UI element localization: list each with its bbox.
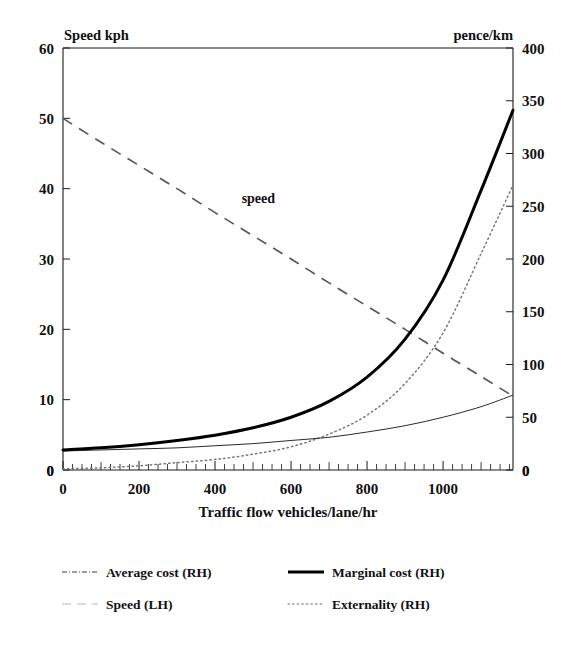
left-axis-unit-label: Speed kph: [64, 27, 129, 43]
right-tick-label: 100: [522, 357, 545, 373]
right-tick-label: 300: [522, 146, 545, 162]
legend-label: Externality (RH): [332, 597, 430, 612]
chart-figure: Speed kph pence/km 0102030405060 0501001…: [0, 0, 588, 652]
x-tick-label: 1000: [428, 481, 458, 497]
x-tick-label: 0: [59, 481, 67, 497]
right-tick-label: 400: [522, 41, 545, 57]
legend-label: Marginal cost (RH): [332, 565, 444, 580]
x-tick-label: 600: [280, 481, 303, 497]
chart-background: [0, 0, 588, 652]
x-axis-title: Traffic flow vehicles/lane/hr: [199, 504, 378, 520]
right-axis-unit-label: pence/km: [453, 27, 513, 43]
left-tick-label: 40: [39, 181, 54, 197]
bottom-left-zero-label: 0: [47, 463, 55, 479]
right-tick-label: 50: [522, 410, 537, 426]
right-tick-label: 350: [522, 93, 545, 109]
left-tick-label: 30: [39, 252, 54, 268]
annotation-layer: speed: [242, 191, 276, 206]
right-tick-label: 250: [522, 199, 545, 215]
legend-label: Average cost (RH): [106, 565, 211, 580]
left-tick-label: 10: [39, 392, 54, 408]
right-tick-label: 200: [522, 252, 545, 268]
traffic-flow-cost-chart: Speed kph pence/km 0102030405060 0501001…: [0, 0, 588, 652]
x-tick-label: 400: [204, 481, 227, 497]
x-tick-label: 800: [356, 481, 379, 497]
legend-label: Speed (LH): [106, 597, 172, 612]
left-tick-label: 20: [39, 322, 54, 338]
left-tick-label: 60: [39, 41, 54, 57]
bottom-right-zero-label: 0: [522, 463, 530, 479]
x-tick-label: 200: [128, 481, 151, 497]
left-tick-label: 50: [39, 111, 54, 127]
right-tick-label: 150: [522, 304, 545, 320]
annotation-speed-label: speed: [242, 191, 276, 206]
